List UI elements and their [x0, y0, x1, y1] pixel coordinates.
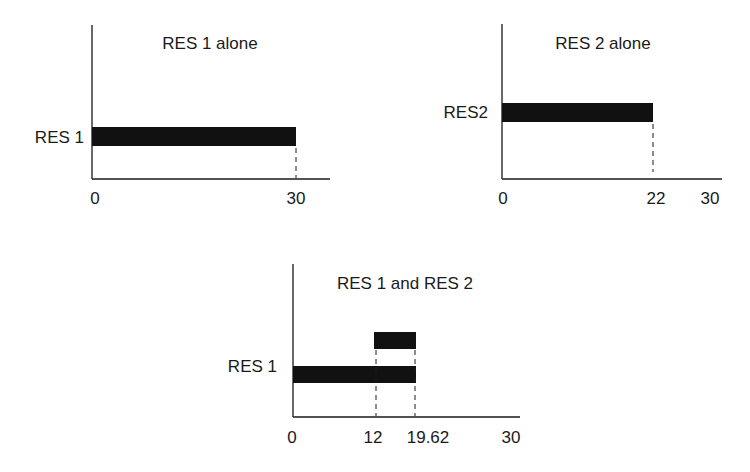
bar-res2: [502, 103, 653, 122]
panel-res1-and-res2: RES 1 and RES 2 RES 1 0 12 19.62 30: [228, 264, 521, 447]
gantt-figure: RES 1 alone RES 1 0 30 RES 2 alone RES2 …: [0, 0, 750, 472]
tick-label: 30: [701, 189, 720, 208]
y-label: RES 1: [35, 128, 84, 147]
panel-title: RES 1 alone: [162, 34, 257, 53]
tick-label: 19.62: [407, 428, 450, 447]
bar-res1: [293, 366, 416, 383]
panel-res1-alone: RES 1 alone RES 1 0 30: [35, 25, 330, 208]
bar-res2: [374, 332, 416, 349]
tick-label: 0: [287, 428, 296, 447]
panel-title: RES 2 alone: [555, 34, 650, 53]
panel-res2-alone: RES 2 alone RES2 0 22 30: [444, 24, 722, 208]
y-label: RES 1: [228, 357, 277, 376]
tick-label: 0: [90, 189, 99, 208]
tick-label: 22: [647, 189, 666, 208]
bar-res1: [92, 127, 296, 146]
y-label: RES2: [444, 103, 488, 122]
tick-label: 30: [287, 189, 306, 208]
tick-label: 30: [502, 428, 521, 447]
panel-title: RES 1 and RES 2: [337, 274, 473, 293]
tick-label: 12: [364, 428, 383, 447]
tick-label: 0: [498, 189, 507, 208]
